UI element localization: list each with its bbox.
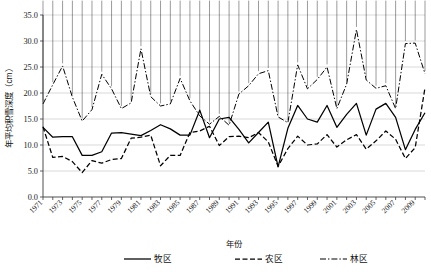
chart-canvas: 0.05.010.015.020.025.030.035.01971197319…: [0, 0, 431, 274]
x-axis-tick-label: 1995: [262, 198, 279, 215]
y-axis-tick-label: 20.0: [23, 89, 38, 98]
x-axis-tick-label: 1985: [164, 198, 181, 215]
x-axis-tick-label: 1983: [145, 198, 162, 215]
snow-depth-line-chart: 0.05.010.015.020.025.030.035.01971197319…: [0, 0, 431, 274]
plot-area: [43, 15, 425, 197]
x-axis-tick-label: 1981: [125, 198, 142, 215]
x-axis-title: 年份: [226, 239, 243, 249]
y-axis-tick-label: 35.0: [23, 11, 38, 20]
x-axis-tick-label: 1997: [282, 198, 299, 215]
y-axis-tick-label: 15.0: [23, 115, 38, 124]
x-axis-tick-label: 2009: [400, 198, 417, 215]
x-axis-tick-label: 2003: [341, 198, 358, 215]
y-axis-tick-label: 5.0: [28, 167, 38, 176]
x-axis-tick-label: 1999: [302, 198, 319, 215]
x-axis-tick-label: 2005: [360, 198, 377, 215]
legend-label-牧区: 牧区: [154, 253, 172, 264]
x-axis-tick-label: 1987: [184, 198, 201, 215]
x-axis-tick-label: 1993: [243, 198, 260, 215]
x-axis-tick-label: 1975: [66, 198, 83, 215]
x-axis-tick-label: 1973: [47, 198, 64, 215]
legend-label-农区: 农区: [265, 253, 283, 264]
x-axis-tick-label: 2007: [380, 198, 397, 215]
x-axis-tick-label: 2001: [321, 198, 338, 215]
legend-label-林区: 林区: [350, 253, 368, 264]
x-axis-tick-label: 1979: [106, 198, 123, 215]
y-axis-tick-label: 10.0: [23, 141, 38, 150]
x-axis-tick-label: 1989: [204, 198, 221, 215]
y-axis-title: 年平均积雪深度（cm）: [4, 64, 14, 147]
y-axis-tick-label: 25.0: [23, 63, 38, 72]
y-axis-tick-label: 30.0: [23, 37, 38, 46]
x-axis-tick-label: 1977: [86, 198, 103, 215]
x-axis-tick-label: 1991: [223, 198, 240, 215]
